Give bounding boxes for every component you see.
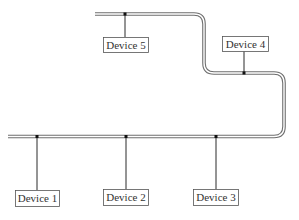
bus-cable-outer [8, 14, 284, 137]
device-label: Device 2 [106, 191, 145, 203]
device-label: Device 5 [106, 39, 146, 51]
bus-network-diagram: Device 1Device 2Device 3Device 4Device 5 [0, 0, 299, 220]
bus-cable-inner [8, 14, 284, 137]
junction-dot-icon [215, 135, 218, 138]
junction-dot-icon [124, 13, 127, 16]
device-label: Device 4 [226, 38, 266, 50]
junction-dot-icon [125, 135, 128, 138]
device-node: Device 1 [16, 135, 60, 207]
device-label: Device 1 [18, 192, 57, 204]
devices-layer: Device 1Device 2Device 3Device 4Device 5 [16, 13, 269, 207]
device-label: Device 3 [196, 191, 236, 203]
device-node: Device 4 [223, 37, 269, 75]
device-node: Device 5 [104, 13, 149, 53]
device-node: Device 2 [104, 135, 149, 206]
junction-dot-icon [243, 72, 246, 75]
bus-cable [8, 14, 284, 137]
device-node: Device 3 [194, 135, 239, 206]
junction-dot-icon [36, 135, 39, 138]
